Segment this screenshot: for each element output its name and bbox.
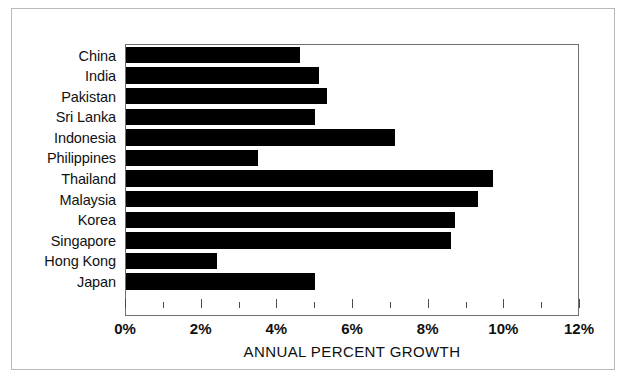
bar-indonesia [126, 129, 395, 145]
category-label: Korea [12, 210, 122, 231]
category-label: Philippines [12, 148, 122, 169]
bars-layer [126, 46, 578, 314]
axis-tick [163, 302, 164, 308]
category-label: Thailand [12, 169, 122, 190]
category-label: Hong Kong [12, 251, 122, 272]
bar-singapore [126, 232, 451, 248]
category-label: India [12, 66, 122, 87]
category-label: China [12, 46, 122, 67]
bar-row [126, 107, 578, 128]
bar-row [126, 231, 578, 252]
x-tick-label: 12% [564, 320, 594, 337]
bar-row [126, 66, 578, 87]
bar-row [126, 169, 578, 190]
bar-row [126, 46, 578, 67]
figure-frame: ChinaIndiaPakistanSri LankaIndonesiaPhil… [11, 8, 615, 370]
bar-row [126, 272, 578, 293]
axis-tick [276, 299, 277, 308]
bar-row [126, 210, 578, 231]
bar-sri-lanka [126, 109, 315, 125]
x-tick-label: 0% [114, 320, 136, 337]
axis-tick [428, 299, 429, 308]
bar-row [126, 148, 578, 169]
axis-tick [352, 299, 353, 308]
axis-tick [201, 299, 202, 308]
axis-tick [314, 302, 315, 308]
axis-tick [503, 299, 504, 308]
bar-india [126, 67, 319, 83]
axis-tick [466, 302, 467, 308]
x-tick-label: 2% [190, 320, 212, 337]
bar-hong-kong [126, 253, 217, 269]
bar-china [126, 47, 300, 63]
bar-chart: ChinaIndiaPakistanSri LankaIndonesiaPhil… [12, 9, 616, 371]
category-label: Singapore [12, 231, 122, 252]
bar-row [126, 190, 578, 211]
bar-japan [126, 273, 315, 289]
bar-philippines [126, 150, 258, 166]
bar-malaysia [126, 191, 478, 207]
bar-row [126, 128, 578, 149]
category-axis-labels: ChinaIndiaPakistanSri LankaIndonesiaPhil… [12, 46, 122, 314]
x-tick-label: 8% [417, 320, 439, 337]
bar-row [126, 87, 578, 108]
axis-tick [125, 299, 126, 308]
x-axis-title: ANNUAL PERCENT GROWTH [125, 343, 579, 360]
axis-tick [541, 302, 542, 308]
axis-tick [579, 299, 580, 308]
category-label: Pakistan [12, 87, 122, 108]
x-tick-label: 4% [265, 320, 287, 337]
axis-tick [239, 302, 240, 308]
category-label: Indonesia [12, 128, 122, 149]
bar-pakistan [126, 88, 327, 104]
bar-korea [126, 212, 455, 228]
x-tick-label: 10% [488, 320, 518, 337]
category-label: Malaysia [12, 190, 122, 211]
category-label: Sri Lanka [12, 107, 122, 128]
category-label: Japan [12, 272, 122, 293]
axis-tick [390, 302, 391, 308]
x-tick-label: 6% [341, 320, 363, 337]
bar-thailand [126, 170, 493, 186]
bar-row [126, 251, 578, 272]
